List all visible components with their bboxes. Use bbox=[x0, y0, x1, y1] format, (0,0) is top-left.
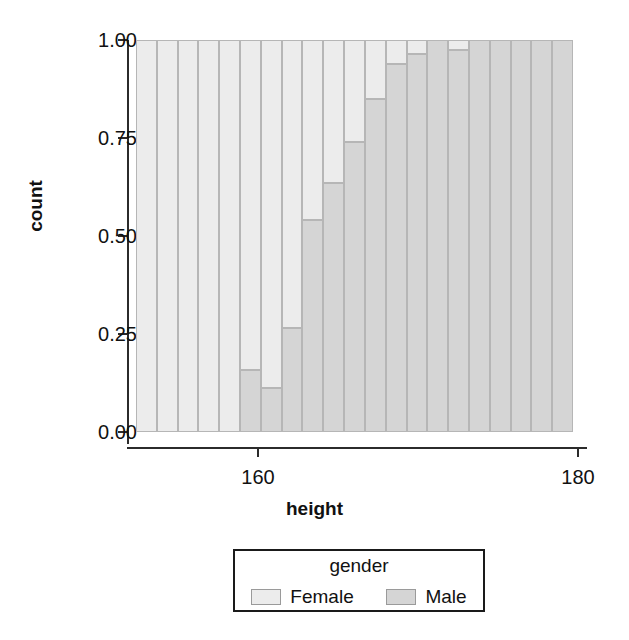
bar-segment-male[interactable] bbox=[323, 183, 344, 432]
legend-item[interactable]: Female bbox=[251, 586, 353, 608]
legend-entries: FemaleMale bbox=[235, 582, 483, 612]
x-tick-mark bbox=[577, 448, 579, 457]
y-tick-label: 1.00 bbox=[67, 29, 137, 52]
bar-segment-female[interactable] bbox=[261, 40, 282, 388]
bar-column[interactable] bbox=[490, 40, 511, 432]
bar-column[interactable] bbox=[323, 40, 344, 432]
bar-segment-male[interactable] bbox=[282, 328, 303, 432]
x-tick-mark bbox=[257, 448, 259, 457]
bar-segment-female[interactable] bbox=[157, 40, 178, 432]
legend-swatch-male bbox=[386, 589, 416, 605]
chart-figure: count 0.000.250.500.751.00 160180200 hei… bbox=[0, 0, 629, 640]
y-axis-title: count bbox=[25, 180, 47, 232]
bar-column[interactable] bbox=[552, 40, 573, 432]
bar-segment-female[interactable] bbox=[386, 40, 407, 64]
legend-item[interactable]: Male bbox=[386, 586, 466, 608]
bar-column[interactable] bbox=[240, 40, 261, 432]
legend-title: gender bbox=[235, 555, 483, 577]
bar-segment-female[interactable] bbox=[448, 40, 469, 50]
bar-segment-male[interactable] bbox=[511, 40, 532, 432]
bar-segment-male[interactable] bbox=[427, 40, 448, 432]
bar-column[interactable] bbox=[157, 40, 178, 432]
bar-column[interactable] bbox=[261, 40, 282, 432]
y-tick-label: 0.25 bbox=[67, 323, 137, 346]
y-tick-label: 0.50 bbox=[67, 225, 137, 248]
bar-column[interactable] bbox=[198, 40, 219, 432]
bar-segment-female[interactable] bbox=[407, 40, 428, 54]
bar-column[interactable] bbox=[178, 40, 199, 432]
x-tick-label: 180 bbox=[561, 466, 594, 489]
bar-segment-male[interactable] bbox=[302, 220, 323, 432]
bar-segment-male[interactable] bbox=[344, 142, 365, 432]
bar-column[interactable] bbox=[469, 40, 490, 432]
x-axis-title: height bbox=[0, 498, 629, 520]
bar-segment-female[interactable] bbox=[302, 40, 323, 220]
bar-column[interactable] bbox=[302, 40, 323, 432]
bar-segment-female[interactable] bbox=[198, 40, 219, 432]
bar-column[interactable] bbox=[219, 40, 240, 432]
bar-segment-male[interactable] bbox=[531, 40, 552, 432]
bar-segment-female[interactable] bbox=[282, 40, 303, 328]
bar-segment-male[interactable] bbox=[469, 40, 490, 432]
x-tick-label: 160 bbox=[241, 466, 274, 489]
bar-column[interactable] bbox=[427, 40, 448, 432]
bar-segment-male[interactable] bbox=[490, 40, 511, 432]
bar-segment-female[interactable] bbox=[178, 40, 199, 432]
bar-segment-female[interactable] bbox=[344, 40, 365, 142]
bar-segment-male[interactable] bbox=[261, 388, 282, 432]
bar-segment-female[interactable] bbox=[323, 40, 344, 183]
bar-column[interactable] bbox=[511, 40, 532, 432]
y-tick-label: 0.00 bbox=[67, 421, 137, 444]
legend-label: Male bbox=[425, 586, 466, 608]
bar-column[interactable] bbox=[386, 40, 407, 432]
plot-area bbox=[136, 40, 573, 432]
legend: gender FemaleMale bbox=[233, 549, 485, 612]
bar-segment-male[interactable] bbox=[448, 50, 469, 432]
bar-column[interactable] bbox=[407, 40, 428, 432]
bar-segment-male[interactable] bbox=[407, 54, 428, 432]
bar-column[interactable] bbox=[448, 40, 469, 432]
bar-segment-male[interactable] bbox=[386, 64, 407, 432]
bar-segment-female[interactable] bbox=[219, 40, 240, 432]
bar-segment-male[interactable] bbox=[552, 40, 573, 432]
bar-column[interactable] bbox=[365, 40, 386, 432]
bar-segment-female[interactable] bbox=[365, 40, 386, 99]
legend-label: Female bbox=[290, 586, 353, 608]
legend-swatch-female bbox=[251, 589, 281, 605]
y-tick-label: 0.75 bbox=[67, 127, 137, 150]
bar-segment-female[interactable] bbox=[136, 40, 157, 432]
bar-segment-male[interactable] bbox=[365, 99, 386, 432]
bar-column[interactable] bbox=[282, 40, 303, 432]
bar-segment-male[interactable] bbox=[240, 370, 261, 432]
bar-column[interactable] bbox=[136, 40, 157, 432]
bar-column[interactable] bbox=[344, 40, 365, 432]
bar-segment-female[interactable] bbox=[240, 40, 261, 370]
x-axis-line bbox=[127, 447, 587, 449]
bar-column[interactable] bbox=[531, 40, 552, 432]
